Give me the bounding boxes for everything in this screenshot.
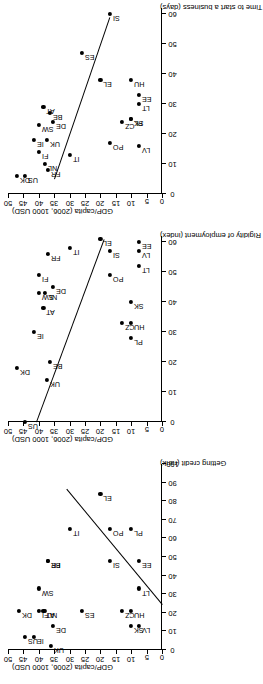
- data-point-label: US: [28, 422, 38, 431]
- x-axis-tick-label: 100: [166, 460, 179, 469]
- data-point: [46, 252, 50, 256]
- data-point-label: EL: [103, 239, 112, 248]
- y-axis-tick-label: 5: [145, 426, 149, 435]
- data-point-label: HU: [134, 610, 144, 619]
- data-point-label: FI: [42, 275, 48, 284]
- x-axis-tick-label: 20: [168, 358, 176, 367]
- y-axis-tick-label: 20: [96, 428, 104, 437]
- trendline: [36, 239, 105, 422]
- data-point: [98, 492, 102, 496]
- data-point: [15, 174, 19, 178]
- y-axis-tick-label: 50: [4, 200, 12, 209]
- data-point: [108, 559, 112, 563]
- data-point-label: DK: [20, 368, 30, 377]
- data-point: [44, 378, 48, 382]
- data-point: [37, 123, 41, 127]
- x-axis-tick-label: 30: [168, 100, 176, 109]
- data-point-label: SI: [113, 14, 120, 23]
- data-point-label: HU: [134, 323, 144, 332]
- y-axis-tick-label: 50: [4, 656, 12, 665]
- y-axis-tick-label: 10: [127, 200, 135, 209]
- data-point: [51, 624, 55, 628]
- x-axis-tick-label: 60: [168, 534, 176, 543]
- x-axis-tick-label: 50: [168, 268, 176, 277]
- y-axis-tick-label: 5: [145, 198, 149, 207]
- y-axis-tick: [39, 194, 40, 198]
- data-point-label: EL: [103, 80, 112, 89]
- data-point: [137, 240, 141, 244]
- data-point-label: HU: [134, 80, 144, 89]
- y-axis-tick-label: 0: [160, 426, 164, 435]
- data-point: [80, 609, 84, 613]
- scatter-panel-1: GDP/capita (2006, 1000 USD)Getting credi…: [0, 456, 200, 684]
- y-axis-tick: [70, 422, 71, 426]
- y-axis-tick: [100, 422, 101, 426]
- data-point: [108, 249, 112, 253]
- plot-area: 051015202530354045500102030405060DKUSFRN…: [8, 8, 162, 194]
- y-axis-tick-label: 15: [112, 428, 120, 437]
- y-axis-tick-label: 40: [35, 656, 43, 665]
- x-axis-tick-label: 50: [168, 40, 176, 49]
- y-axis-title: GDP/capita (2006, 1000 USD): [12, 663, 113, 672]
- x-axis-tick: [162, 575, 166, 576]
- data-point-label: PO: [113, 143, 123, 152]
- y-axis-tick-label: 15: [112, 656, 120, 665]
- y-axis-tick-label: 0: [160, 198, 164, 207]
- x-axis-tick: [162, 537, 166, 538]
- x-axis-tick: [162, 361, 166, 362]
- y-axis-tick: [116, 194, 117, 198]
- x-axis-tick-label: 30: [168, 328, 176, 337]
- y-axis-tick: [85, 422, 86, 426]
- scatter-panel-2: GDP/capita (2006, 1000 USD)Rigidity of e…: [0, 228, 200, 456]
- x-axis-tick: [162, 193, 166, 194]
- y-axis-tick-label: 20: [96, 200, 104, 209]
- data-point-label: LT: [142, 104, 150, 113]
- y-axis-title: GDP/capita (2006, 1000 USD): [12, 207, 113, 216]
- y-axis-tick-label: 35: [50, 656, 58, 665]
- y-axis-tick-label: 10: [127, 656, 135, 665]
- trendline: [54, 17, 110, 179]
- data-point-label: PL: [134, 338, 143, 347]
- y-axis-tick-label: 30: [65, 656, 73, 665]
- data-point: [137, 93, 141, 97]
- data-point-label: AT: [46, 107, 55, 116]
- data-point-label: EE: [142, 95, 152, 104]
- data-point: [43, 162, 47, 166]
- data-point-label: DK: [22, 610, 32, 619]
- data-point: [37, 273, 41, 277]
- x-axis-tick: [162, 301, 166, 302]
- data-point: [37, 609, 41, 613]
- data-point: [32, 330, 36, 334]
- data-point-label: ES: [85, 610, 95, 619]
- data-point-label: PL: [134, 529, 143, 538]
- data-point-label: IE: [37, 332, 44, 341]
- y-axis-tick-label: 45: [19, 656, 27, 665]
- data-point: [120, 321, 124, 325]
- y-axis-tick-label: 30: [65, 428, 73, 437]
- data-point: [49, 644, 53, 648]
- x-axis-tick: [162, 649, 166, 650]
- x-axis-tick: [162, 391, 166, 392]
- data-point: [17, 609, 21, 613]
- data-point-label: AT: [46, 610, 55, 619]
- x-axis-tick-label: 10: [168, 160, 176, 169]
- x-axis-tick: [162, 421, 166, 422]
- x-axis-line: [161, 236, 162, 422]
- plot-area: 051015202530354045500102030405060USDKUKB…: [8, 236, 162, 422]
- y-axis-tick-label: 30: [65, 200, 73, 209]
- data-point: [108, 527, 112, 531]
- y-axis-tick: [70, 650, 71, 654]
- x-axis-tick: [162, 271, 166, 272]
- data-point: [108, 273, 112, 277]
- x-axis-tick: [162, 13, 166, 14]
- data-point-label: SK: [134, 302, 144, 311]
- y-axis-tick-label: 20: [96, 656, 104, 665]
- y-axis-tick-label: 50: [4, 428, 12, 437]
- data-point-label: EE: [142, 560, 152, 569]
- x-axis-tick: [162, 163, 166, 164]
- y-axis-tick: [23, 650, 24, 654]
- data-point: [37, 150, 41, 154]
- data-point-label: LV: [142, 251, 150, 260]
- data-point: [129, 78, 133, 82]
- y-axis-tick: [131, 422, 132, 426]
